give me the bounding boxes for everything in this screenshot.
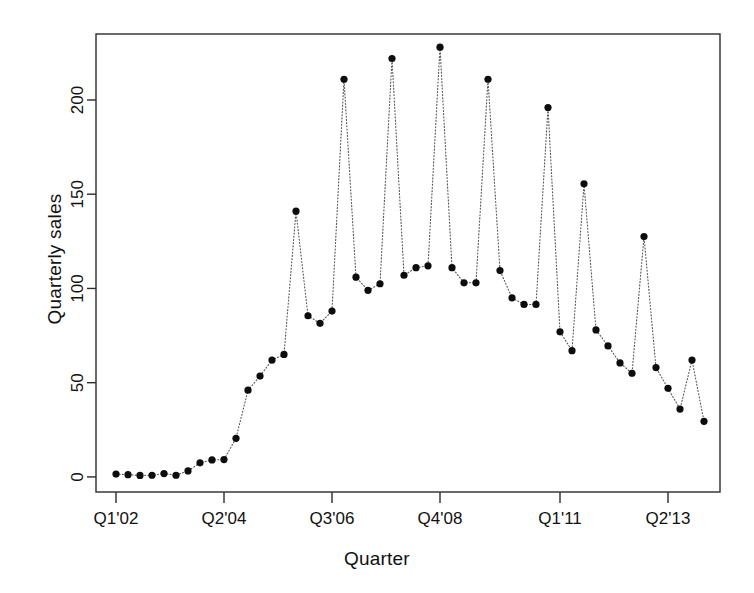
data-point [664, 385, 671, 392]
data-point [220, 456, 227, 463]
quarterly-sales-chart: 050100150200 Q1'02Q2'04Q3'06Q4'08Q1'11Q2… [0, 0, 754, 593]
x-axis-ticks: Q1'02Q2'04Q3'06Q4'08Q1'11Q2'13 [94, 492, 691, 528]
data-point [256, 372, 263, 379]
data-point [580, 180, 587, 187]
data-point [424, 262, 431, 269]
y-tick-label: 150 [69, 180, 88, 208]
data-point [448, 264, 455, 271]
data-point [304, 312, 311, 319]
x-tick-label: Q1'11 [538, 509, 582, 528]
data-point [556, 328, 563, 335]
data-point [184, 467, 191, 474]
data-point [676, 405, 683, 412]
data-point [652, 364, 659, 371]
data-point [292, 208, 299, 215]
y-tick-label: 50 [69, 373, 88, 392]
plot-frame [96, 34, 720, 492]
data-point [508, 294, 515, 301]
data-point [148, 472, 155, 479]
data-point [136, 472, 143, 479]
data-point [376, 280, 383, 287]
data-point [328, 307, 335, 314]
y-tick-label: 0 [69, 472, 88, 481]
data-point [436, 44, 443, 51]
data-point [160, 470, 167, 477]
data-point [616, 359, 623, 366]
data-point [364, 287, 371, 294]
x-axis-title: Quarter [0, 548, 754, 570]
data-point [484, 76, 491, 83]
series-data-points [112, 44, 707, 479]
data-point [700, 418, 707, 425]
data-point [592, 326, 599, 333]
data-point [268, 356, 275, 363]
x-tick-label: Q4'08 [418, 509, 463, 528]
data-point [244, 387, 251, 394]
data-point [520, 301, 527, 308]
x-tick-label: Q3'06 [310, 509, 355, 528]
y-axis-title: Quarterly sales [44, 109, 66, 409]
data-point [640, 233, 647, 240]
x-tick-label: Q2'13 [646, 509, 691, 528]
data-point [124, 471, 131, 478]
data-point [604, 342, 611, 349]
data-point [352, 274, 359, 281]
data-point [544, 104, 551, 111]
y-tick-label: 200 [69, 86, 88, 114]
data-point [496, 267, 503, 274]
data-point [172, 472, 179, 479]
data-point [196, 459, 203, 466]
data-point [460, 279, 467, 286]
data-point [208, 456, 215, 463]
series-connector-line [116, 47, 704, 475]
series-line [116, 47, 704, 475]
data-point [316, 320, 323, 327]
data-point [628, 370, 635, 377]
data-point [280, 351, 287, 358]
data-point [388, 55, 395, 62]
data-point [112, 470, 119, 477]
data-point [688, 356, 695, 363]
plot-canvas: 050100150200 Q1'02Q2'04Q3'06Q4'08Q1'11Q2… [0, 0, 754, 593]
data-point [340, 76, 347, 83]
data-point [568, 347, 575, 354]
data-point [532, 301, 539, 308]
x-tick-label: Q2'04 [202, 509, 247, 528]
data-point [400, 272, 407, 279]
data-point [412, 264, 419, 271]
data-point [472, 279, 479, 286]
x-tick-label: Q1'02 [94, 509, 139, 528]
data-point [232, 435, 239, 442]
y-axis-ticks: 050100150200 [69, 86, 97, 482]
y-tick-label: 100 [69, 274, 88, 302]
